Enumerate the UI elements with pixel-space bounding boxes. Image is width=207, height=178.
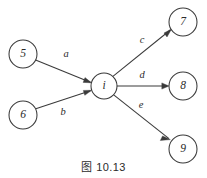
directed-graph-diagram: 5 6 i 7 8 9 bbox=[0, 0, 207, 178]
edge-d-arrowhead bbox=[162, 83, 169, 89]
edge-d bbox=[117, 83, 169, 89]
edge-a-arrowhead bbox=[83, 78, 92, 83]
figure-container: 5 6 i 7 8 9 bbox=[0, 0, 207, 178]
edge-b-arrowhead bbox=[83, 90, 91, 95]
node-8-label: 8 bbox=[180, 79, 186, 91]
node-5[interactable]: 5 bbox=[9, 40, 37, 68]
edge-b-label: b bbox=[60, 106, 65, 117]
node-8[interactable]: 8 bbox=[169, 72, 197, 100]
node-i-label: i bbox=[102, 79, 105, 91]
node-6-label: 6 bbox=[20, 108, 26, 120]
edge-e-label: e bbox=[139, 99, 144, 110]
edge-c-label: c bbox=[140, 34, 145, 45]
node-6[interactable]: 6 bbox=[9, 101, 37, 129]
node-7[interactable]: 7 bbox=[169, 8, 197, 36]
node-i[interactable]: i bbox=[91, 73, 117, 99]
node-5-label: 5 bbox=[20, 47, 26, 59]
edge-c-arrowhead bbox=[164, 29, 172, 37]
edge-d-label: d bbox=[139, 69, 145, 80]
node-9-label: 9 bbox=[180, 142, 186, 154]
edge-a-line bbox=[36, 60, 91, 82]
figure-caption: 图 10.13 bbox=[0, 158, 207, 174]
edge-a bbox=[36, 60, 92, 83]
edge-a-label: a bbox=[63, 48, 68, 59]
